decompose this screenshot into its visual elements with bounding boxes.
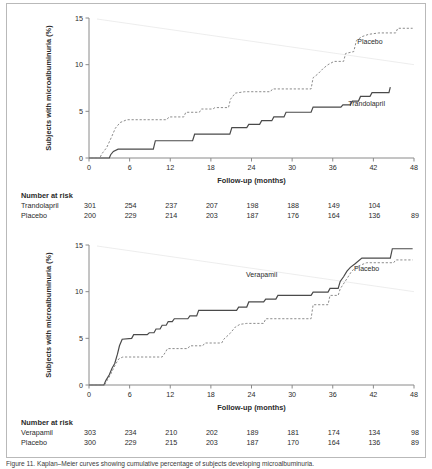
curve-trandolapril [89,87,390,158]
curve-label: Placebo [354,265,379,272]
risk-value: 303 [84,428,96,437]
figure-frame: 0510150612182430364248Follow-up (months)… [6,3,426,458]
risk-value: 254 [125,201,137,210]
risk-value: 176 [287,211,299,220]
risk-value: 207 [206,201,218,210]
x-tick-label: 48 [410,163,418,172]
x-tick-label: 6 [128,163,132,172]
chart-svg-bottom: 0510150612182430364248Follow-up (months)… [7,231,427,458]
risk-row-label: Placebo [21,438,47,447]
y-tick-label: 15 [75,241,83,250]
risk-value: 237 [165,201,177,210]
chart-panel-top: 0510150612182430364248Follow-up (months)… [7,4,427,231]
risk-row-label: Verapamil [21,428,53,437]
risk-value: 210 [165,428,177,437]
x-tick-label: 6 [128,390,132,399]
risk-value: 104 [368,201,380,210]
risk-value: 214 [165,211,177,220]
kaplan-meier-plot-top: 0510150612182430364248Follow-up (months)… [7,4,427,231]
y-axis-title: Subjects with microalbuminuria (%) [44,252,53,378]
risk-value: 187 [247,211,259,220]
risk-table-header: Number at risk [21,418,74,427]
x-tick-label: 36 [329,390,337,399]
chart-panel-bottom: 0510150612182430364248Follow-up (months)… [7,231,427,458]
x-tick-label: 12 [166,390,174,399]
risk-value: 187 [247,438,259,447]
curve-label: Trandolapril [348,100,385,108]
y-tick-label: 10 [75,60,83,69]
risk-value: 200 [84,211,96,220]
risk-value: 215 [165,438,177,447]
curve-label: Placebo [357,38,382,45]
risk-value: 136 [368,438,380,447]
x-tick-label: 18 [207,163,215,172]
y-tick-label: 0 [79,154,83,163]
y-tick-label: 5 [79,107,83,116]
risk-value: 189 [247,428,259,437]
risk-value: 170 [287,438,299,447]
risk-value: 229 [125,438,137,447]
risk-value: 188 [287,201,299,210]
curve-label: Verapamil [246,271,278,279]
y-tick-label: 15 [75,14,83,23]
figure-container: 0510150612182430364248Follow-up (months)… [0,0,432,469]
curve-placebo [89,28,413,158]
y-tick-label: 5 [79,334,83,343]
x-tick-label: 0 [87,390,91,399]
risk-value: 134 [368,428,380,437]
figure-caption: Figure 11. Kaplan–Meier curves showing c… [6,459,430,468]
risk-value: 229 [125,211,137,220]
x-tick-label: 12 [166,163,174,172]
y-tick-label: 0 [79,381,83,390]
risk-value: 136 [368,211,380,220]
x-axis-title: Follow-up (months) [217,403,286,412]
risk-value: 203 [206,211,218,220]
risk-row-label: Trandolapril [21,201,59,210]
risk-value: 98 [411,428,419,437]
risk-value: 301 [84,201,96,210]
risk-value: 149 [328,201,340,210]
risk-value: 203 [206,438,218,447]
risk-value: 300 [84,438,96,447]
risk-value: 234 [125,428,137,437]
chart-svg-top: 0510150612182430364248Follow-up (months)… [7,4,427,231]
x-tick-label: 24 [248,163,256,172]
x-tick-label: 24 [248,390,256,399]
x-tick-label: 30 [288,390,296,399]
risk-value: 89 [411,211,419,220]
x-tick-label: 18 [207,390,215,399]
risk-value: 198 [247,201,259,210]
x-tick-label: 42 [369,163,377,172]
x-axis-title: Follow-up (months) [217,176,286,185]
y-axis-title: Subjects with microalbuminuria (%) [44,25,53,151]
x-tick-label: 42 [369,390,377,399]
risk-value: 164 [328,438,340,447]
risk-value: 181 [287,428,299,437]
risk-value: 174 [328,428,340,437]
x-tick-label: 0 [87,163,91,172]
x-tick-label: 48 [410,390,418,399]
y-tick-label: 10 [75,287,83,296]
risk-table-header: Number at risk [21,191,74,200]
risk-value: 202 [206,428,218,437]
x-tick-label: 30 [288,163,296,172]
risk-value: 164 [328,211,340,220]
risk-value: 89 [411,438,419,447]
curve-placebo [89,260,413,385]
x-tick-label: 36 [329,163,337,172]
risk-row-label: Placebo [21,211,47,220]
kaplan-meier-plot-bottom: 0510150612182430364248Follow-up (months)… [7,231,427,458]
